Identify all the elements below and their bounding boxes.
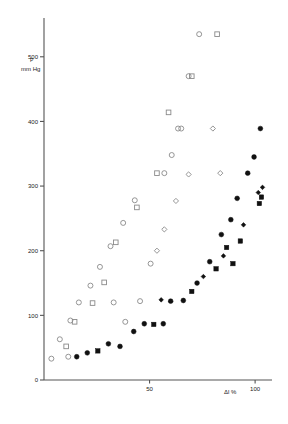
data-point-open-circle xyxy=(132,198,137,203)
series-open-diamond xyxy=(154,126,223,253)
data-point-open-circle xyxy=(169,153,174,158)
data-point-open-circle xyxy=(138,299,143,304)
data-point-filled-square xyxy=(259,195,263,199)
y-axis-title-line2: mm Hg xyxy=(21,66,40,72)
data-point-filled-diamond xyxy=(201,274,206,279)
data-point-open-square xyxy=(64,344,69,349)
data-point-open-diamond xyxy=(154,248,159,253)
data-point-open-diamond xyxy=(210,126,215,131)
x-axis-ticks: 50100 xyxy=(146,380,261,392)
data-point-open-circle xyxy=(176,126,181,131)
data-point-open-diamond xyxy=(186,172,191,177)
data-point-filled-circle xyxy=(235,196,240,201)
data-point-open-square xyxy=(215,32,220,37)
data-point-filled-circle xyxy=(142,321,147,326)
data-point-filled-circle xyxy=(195,281,200,286)
data-point-filled-circle xyxy=(245,171,250,176)
plot-canvas: 0100200300400500 50100 P mm Hg Δl % xyxy=(0,0,288,424)
data-point-filled-diamond xyxy=(159,298,164,303)
data-point-filled-circle xyxy=(161,321,166,326)
data-point-open-diamond xyxy=(162,227,167,232)
data-point-open-circle xyxy=(148,261,153,266)
data-point-filled-square xyxy=(152,322,156,326)
data-point-open-square xyxy=(135,205,140,210)
data-point-open-circle xyxy=(76,300,81,305)
data-point-open-square xyxy=(90,301,95,306)
data-point-open-circle xyxy=(57,337,62,342)
series-open-square xyxy=(64,32,220,349)
data-point-filled-square xyxy=(238,239,242,243)
data-point-open-circle xyxy=(186,74,191,79)
series-open-circle xyxy=(49,32,202,362)
data-point-filled-square xyxy=(96,349,100,353)
data-point-open-circle xyxy=(108,244,113,249)
y-tick-label-400: 400 xyxy=(28,119,39,125)
x-axis-title: Δl % xyxy=(224,389,237,395)
data-point-filled-square xyxy=(214,267,218,271)
data-point-open-square xyxy=(155,171,160,176)
data-point-open-circle xyxy=(123,319,128,324)
data-point-filled-square xyxy=(224,245,228,249)
data-point-filled-diamond xyxy=(221,254,226,259)
data-point-open-circle xyxy=(162,171,167,176)
data-point-filled-circle xyxy=(252,155,257,160)
data-point-open-circle xyxy=(66,354,71,359)
y-axis-ticks: 0100200300400500 xyxy=(28,54,44,383)
data-point-filled-circle xyxy=(219,232,224,237)
data-point-open-circle xyxy=(49,356,54,361)
y-tick-label-100: 100 xyxy=(28,313,39,319)
data-point-filled-circle xyxy=(118,344,123,349)
data-point-open-circle xyxy=(197,32,202,37)
series-filled-square xyxy=(96,195,264,353)
data-point-open-square xyxy=(102,280,107,285)
data-point-open-diamond xyxy=(218,171,223,176)
data-point-open-square xyxy=(166,110,171,115)
series-filled-circle xyxy=(74,126,262,359)
data-point-filled-diamond xyxy=(256,190,261,195)
data-point-open-circle xyxy=(88,283,93,288)
data-point-filled-circle xyxy=(74,354,79,359)
data-point-filled-circle xyxy=(131,329,136,334)
y-tick-label-0: 0 xyxy=(35,377,39,383)
data-point-open-circle xyxy=(111,300,116,305)
data-point-filled-circle xyxy=(207,259,212,264)
data-point-open-circle xyxy=(121,220,126,225)
data-point-open-circle xyxy=(97,264,102,269)
x-tick-label-100: 100 xyxy=(250,386,261,392)
y-tick-label-300: 300 xyxy=(28,183,39,189)
y-tick-label-200: 200 xyxy=(28,248,39,254)
data-point-filled-diamond xyxy=(241,223,246,228)
data-point-filled-square xyxy=(257,201,261,205)
scatter-plot-figure: 0100200300400500 50100 P mm Hg Δl % xyxy=(0,0,288,424)
data-point-filled-circle xyxy=(228,217,233,222)
data-point-filled-circle xyxy=(181,298,186,303)
data-points xyxy=(49,32,265,362)
data-point-filled-square xyxy=(190,289,194,293)
data-point-filled-circle xyxy=(106,341,111,346)
x-tick-label-50: 50 xyxy=(146,386,153,392)
data-point-filled-square xyxy=(231,261,235,265)
data-point-filled-circle xyxy=(258,126,263,131)
data-point-filled-circle xyxy=(168,299,173,304)
data-point-open-square xyxy=(113,240,118,245)
data-point-filled-circle xyxy=(85,350,90,355)
data-point-open-diamond xyxy=(173,198,178,203)
data-point-filled-diamond xyxy=(260,185,265,190)
